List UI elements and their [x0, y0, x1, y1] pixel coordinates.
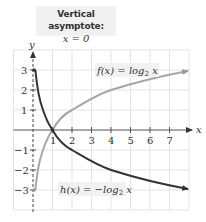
point-0-neg3: [32, 188, 36, 192]
x-tick-4: 4: [108, 135, 114, 146]
chart-plot: y x 1 2 3 4 5 6 7 3 2 1 −1 −2 −3 f(x) = …: [0, 0, 206, 222]
y-tick-neg2: −2: [14, 165, 29, 176]
x-tick-3: 3: [89, 135, 95, 146]
x-tick-6: 6: [147, 135, 153, 146]
y-tick-1: 1: [21, 105, 27, 116]
y-tick-neg3: −3: [14, 185, 29, 196]
y-tick-3: 3: [21, 65, 27, 76]
y-tick-neg1: −1: [14, 145, 29, 156]
y-tick-2: 2: [21, 85, 27, 96]
x-tick-1: 1: [50, 135, 56, 146]
x-tick-2: 2: [69, 135, 75, 146]
x-tick-7: 7: [167, 135, 173, 146]
point-0-3: [32, 68, 36, 72]
y-axis-label: y: [28, 39, 35, 50]
x-tick-5: 5: [128, 135, 134, 146]
x-axis-label: x: [196, 124, 202, 135]
point-1-0: [51, 128, 55, 132]
